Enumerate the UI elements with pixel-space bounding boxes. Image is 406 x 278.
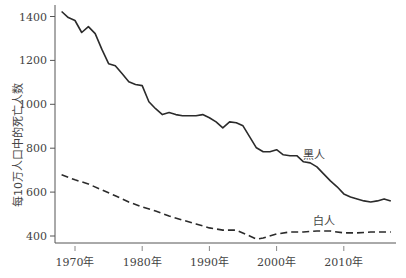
series-line-black <box>62 12 391 203</box>
y-tick-label: 1200 <box>19 54 47 67</box>
y-tick-label: 600 <box>26 186 47 199</box>
x-tick-label: 1970年 <box>56 255 95 269</box>
axes <box>55 5 396 243</box>
x-tick-label: 1990年 <box>190 255 229 269</box>
series-line-white <box>62 175 391 239</box>
mortality-line-chart: 400600800100012001400 1970年1980年1990年200… <box>0 0 406 278</box>
x-tick-label: 1980年 <box>123 255 162 269</box>
y-axis-label: 每10万人口中的死亡人数 <box>11 83 25 207</box>
x-axis-ticks: 1970年1980年1990年2000年2010年 <box>56 246 364 269</box>
y-tick-label: 400 <box>26 230 47 243</box>
x-tick-label: 2000年 <box>257 255 296 269</box>
x-tick-label: 2010年 <box>324 255 363 269</box>
y-tick-label: 1400 <box>19 11 47 24</box>
series-label: 白人 <box>313 214 335 228</box>
series-lines <box>62 12 391 240</box>
series-label: 黑人 <box>303 149 325 162</box>
y-tick-label: 800 <box>26 142 47 155</box>
series-labels: 黑人白人 <box>303 149 335 228</box>
